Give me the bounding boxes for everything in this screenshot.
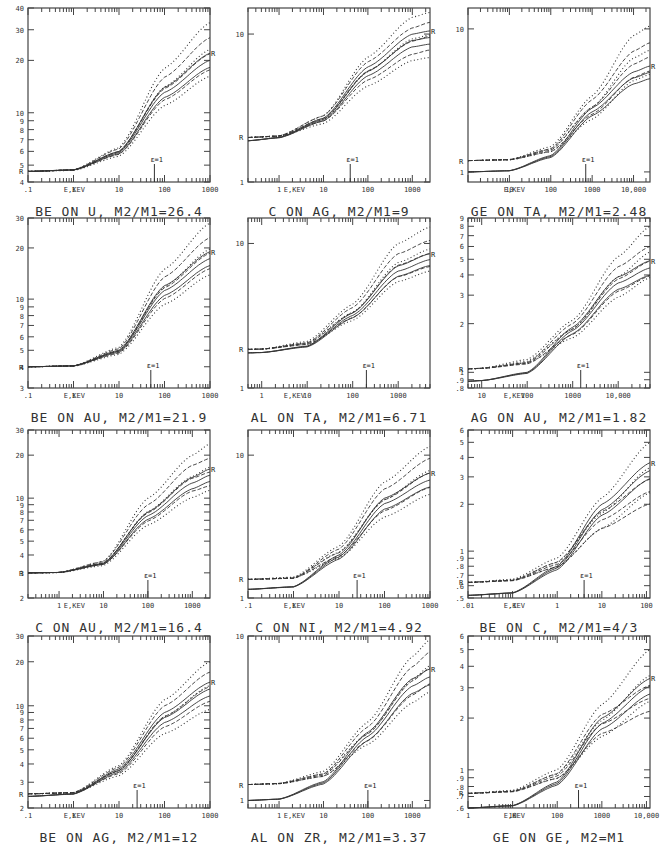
- plot-panel: 1101101001000E,KEVRRε=1: [248, 218, 430, 388]
- curve-dotted: [248, 494, 430, 579]
- x-tick-label: 1: [555, 602, 559, 610]
- x-tick-label: 10,000: [621, 186, 646, 194]
- curve-solid: [468, 479, 650, 596]
- curve-solid: [468, 261, 650, 382]
- y-tick-label: 6: [20, 527, 24, 535]
- y-tick-label: 5: [460, 439, 464, 447]
- curve-dotted: [248, 35, 430, 138]
- x-tick-label: 10: [99, 602, 107, 610]
- plot-caption: AL ON ZR, M2/M1=3.37: [238, 830, 440, 845]
- x-tick-label: 100: [158, 186, 171, 194]
- curve-dashed: [468, 247, 650, 369]
- y-tick-label: 30: [16, 633, 24, 641]
- curve-dotted: [468, 252, 650, 369]
- curve-solid: [28, 252, 210, 367]
- x-tick-label: 1000: [202, 186, 219, 194]
- curve-dotted: [468, 278, 650, 369]
- y-tick-label: 30: [16, 27, 24, 35]
- y-tick-label: 8: [20, 509, 24, 517]
- plot-panel: .5.6.7.8.9123456.01.1110100E,KEVRRε=1: [468, 430, 650, 598]
- curve-dotted: [468, 676, 650, 794]
- x-axis-label: E,KEV: [504, 392, 526, 400]
- x-tick-label: 1: [466, 812, 470, 820]
- y-tick-label: 3: [460, 474, 464, 482]
- y-tick-label: 10: [16, 110, 24, 118]
- curve-solid: [248, 38, 430, 141]
- curve-solid: [248, 480, 430, 589]
- curve-solid: [248, 260, 430, 353]
- r-marker-right: R: [651, 63, 656, 71]
- curve-dashed: [28, 701, 210, 794]
- x-tick-label: 10: [115, 392, 123, 400]
- y-tick-label: 1: [460, 548, 464, 556]
- x-axis-label: E,KEV: [284, 392, 306, 400]
- x-tick-label: 10,000: [634, 812, 659, 820]
- curve-dotted: [28, 49, 210, 171]
- y-tick-label: 5: [20, 747, 24, 755]
- epsilon-marker: ε=1: [362, 362, 375, 370]
- y-tick-label: .8: [456, 385, 464, 393]
- plot-area: 11010100100010,000E,KEVRRε=1: [468, 8, 650, 182]
- curve-solid: [468, 463, 650, 596]
- curve-dashed: [28, 672, 210, 794]
- plot-area: 45678910203040.11101001000E,KEVRRε=1: [28, 8, 210, 182]
- curve-solid: [468, 678, 650, 808]
- y-tick-label: 2: [460, 715, 464, 723]
- plot-frame: [468, 218, 650, 388]
- curve-dashed: [248, 668, 430, 785]
- y-tick-label: 6: [20, 735, 24, 743]
- x-tick-label: 1000: [422, 602, 439, 610]
- y-tick-label: 2: [460, 321, 464, 329]
- plot-area: 1101101001000E,KEVRRε=1: [248, 8, 430, 182]
- plot-area: 1101101001000E,KEVRRε=1: [248, 218, 430, 388]
- curve-dashed: [28, 472, 210, 573]
- r-marker-right: R: [211, 466, 216, 474]
- y-tick-label: 20: [16, 57, 24, 65]
- y-tick-label: .9: [456, 555, 464, 563]
- r-marker-right: R: [431, 28, 436, 36]
- x-tick-label: 100: [362, 812, 375, 820]
- y-tick-label: 4: [460, 663, 464, 671]
- curve-dashed: [28, 687, 210, 794]
- plot-caption: C ON NI, M2/M1=4.92: [238, 620, 440, 635]
- x-axis-label: E,KEV: [64, 812, 86, 820]
- x-tick-label: .1: [24, 812, 32, 820]
- curve-dashed: [468, 504, 650, 583]
- y-tick-label: 6: [20, 334, 24, 342]
- y-tick-label: 20: [16, 452, 24, 460]
- r-marker-right: R: [651, 258, 656, 266]
- x-tick-label: 10: [115, 812, 123, 820]
- epsilon-marker: ε=1: [147, 362, 160, 370]
- plot-panel: 1101101001000E,KEVRRε=1: [248, 8, 430, 182]
- r-marker-right: R: [651, 675, 656, 683]
- r-marker-right: R: [431, 251, 436, 259]
- curve-solid: [28, 482, 210, 573]
- r-marker-left: R: [239, 134, 244, 142]
- y-tick-label: 1: [240, 797, 244, 805]
- y-tick-label: 7: [20, 322, 24, 330]
- curve-solid: [468, 79, 650, 172]
- curve-dotted: [28, 709, 210, 794]
- plot-caption: C ON AG, M2/M1=9: [238, 204, 440, 219]
- y-tick-label: 9: [460, 215, 464, 223]
- y-tick-label: 2: [20, 595, 24, 603]
- epsilon-marker: ε=1: [353, 572, 366, 580]
- curve-dotted: [28, 686, 210, 794]
- curve-solid: [248, 473, 430, 589]
- x-tick-label: 100: [551, 812, 564, 820]
- x-tick-label: 1000: [584, 186, 601, 194]
- curve-solid: [468, 268, 650, 381]
- plot-caption: GE ON GE, M2=M1: [458, 830, 660, 845]
- r-marker-right: R: [431, 470, 436, 478]
- x-axis-label: E,KEV: [64, 392, 86, 400]
- y-tick-label: 10: [16, 296, 24, 304]
- plot-panel: 45678910203040.11101001000E,KEVRRε=1: [28, 8, 210, 182]
- curve-solid: [468, 72, 650, 171]
- x-tick-label: 100: [362, 186, 375, 194]
- y-tick-label: 10: [16, 703, 24, 711]
- curve-dashed: [28, 486, 210, 573]
- plot-panel: .6.7.8.9123456110100100010,000E,KEVRRε=1: [468, 636, 650, 808]
- r-marker-left: R: [239, 782, 244, 790]
- y-tick-label: 5: [20, 538, 24, 546]
- r-marker-right: R: [211, 50, 216, 58]
